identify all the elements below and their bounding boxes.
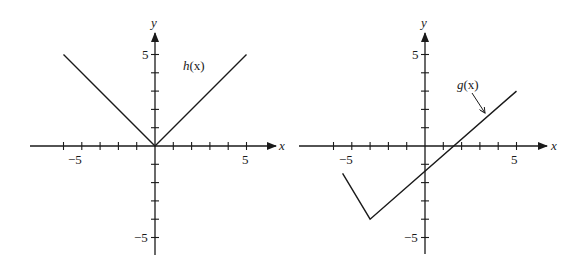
- x-tick-label-5: 5: [242, 152, 249, 167]
- g-graph: x y −5 5 5 −5 g(x): [299, 15, 557, 254]
- x-tick-label-neg5: −5: [339, 152, 353, 167]
- y-tick-label-5: 5: [412, 47, 419, 62]
- x-axis-label: x: [278, 138, 285, 153]
- function-label-h: h(x): [183, 58, 205, 73]
- annotation-arrow-icon: [472, 93, 485, 113]
- x-axis-label: x: [550, 138, 557, 153]
- y-axis-label: y: [149, 15, 157, 30]
- x-tick-label-5: 5: [511, 152, 518, 167]
- function-arg: (x): [464, 77, 479, 92]
- y-axis-label: y: [419, 15, 427, 30]
- function-arg: (x): [190, 58, 205, 73]
- y-tick-label-5: 5: [142, 47, 149, 62]
- function-label-g: g(x): [457, 77, 479, 92]
- h-graph: x y −5 5 5 −5 h(x): [30, 15, 285, 255]
- graphs-canvas: x y −5 5 5 −5 h(x) x y −5 5 5 −5 g(x): [0, 0, 583, 270]
- x-tick-label-neg5: −5: [68, 152, 82, 167]
- g-curve: [343, 91, 517, 219]
- y-tick-label-neg5: −5: [404, 230, 418, 245]
- y-tick-label-neg5: −5: [134, 230, 148, 245]
